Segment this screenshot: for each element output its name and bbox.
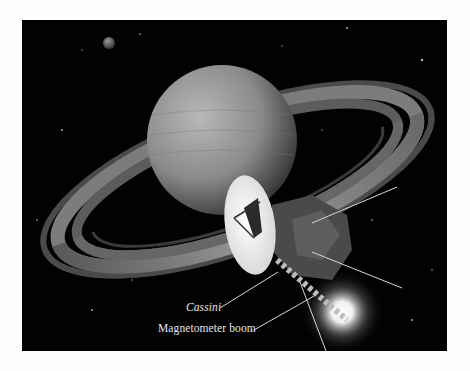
saturn-planet xyxy=(147,65,297,215)
magnetometer-boom-label: Magnetometer boom xyxy=(158,322,256,334)
sun-glare xyxy=(300,270,384,351)
moon xyxy=(103,37,115,49)
cassini-label: Cassini xyxy=(186,301,221,313)
saturn-cassini-illustration xyxy=(22,20,447,351)
figure-image: Cassini Magnetometer boom xyxy=(22,20,447,351)
